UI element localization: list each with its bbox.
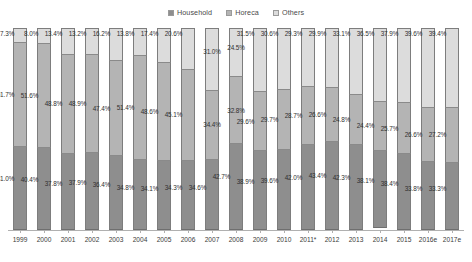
bar-column[interactable]: 29.9%26.6%43.4% — [325, 28, 338, 230]
bar-column[interactable]: 20.6%45.1%34.3% — [181, 28, 194, 230]
x-axis-tick-label: 2003 — [109, 236, 124, 243]
legend-item-label: Others — [282, 8, 304, 17]
bar-value-label: 38.1% — [357, 177, 375, 184]
x-axis-tick-label: 2011* — [300, 236, 317, 243]
bar-value-label: 26.6% — [405, 131, 423, 138]
bar-segment-household[interactable]: 34.8% — [133, 160, 146, 230]
bar-value-label: 31.0% — [203, 48, 221, 55]
x-axis-tick-label: 2009 — [253, 236, 268, 243]
bar-column[interactable]: 13.4%48.8%37.8% — [61, 28, 74, 230]
bar-segment-household[interactable]: 33.8% — [421, 162, 434, 230]
x-axis-tick-label: 2004 — [133, 236, 148, 243]
x-axis-tick-mark — [140, 230, 141, 233]
legend-item-horeca[interactable]: Horeca — [226, 8, 259, 17]
bar-segment-household[interactable]: 39.6% — [277, 150, 290, 230]
bar-value-label: 13.4% — [45, 30, 63, 37]
bar-column[interactable]: 13.8%51.4%34.8% — [133, 28, 146, 230]
x-axis-tick-label: 2002 — [85, 236, 100, 243]
bar-column[interactable]: 7.3%51.7%41.0% — [13, 28, 26, 230]
bar-segment-horeca[interactable]: 45.1% — [181, 70, 194, 161]
bar-column[interactable]: 31.5%29.6%38.9% — [253, 28, 266, 230]
x-axis-tick-label: 2007 — [205, 236, 220, 243]
bar-segment-household[interactable]: 36.4% — [109, 156, 122, 230]
bar-segment-others[interactable]: 30.6% — [277, 28, 290, 90]
x-axis-tick-label: 2010 — [277, 236, 292, 243]
x-axis-tick-mark — [284, 230, 285, 233]
bar-segment-household[interactable]: 42.3% — [349, 145, 362, 230]
bar-segment-others[interactable]: 37.9% — [397, 28, 410, 103]
bar-segment-others[interactable]: 31.0% — [205, 28, 218, 91]
bar-segment-household[interactable]: 38.1% — [373, 151, 386, 228]
bar-value-label: 36.4% — [93, 181, 111, 188]
bar-segment-household[interactable]: 33.3% — [445, 163, 458, 230]
bar-segment-others[interactable]: 39.6% — [421, 28, 434, 108]
bar-segment-household[interactable]: 34.3% — [181, 161, 194, 230]
bar-segment-others[interactable]: 33.1% — [349, 28, 362, 95]
bar-column[interactable]: 37.9%25.7%38.4% — [397, 28, 410, 230]
bar-segment-horeca[interactable]: 34.4% — [205, 91, 218, 160]
x-axis-tick-label: 2000 — [37, 236, 52, 243]
bar-value-label: 30.6% — [261, 30, 279, 37]
bar-column[interactable]: 31.0%34.4%34.6% — [205, 28, 218, 230]
bar-column[interactable]: 39.6%26.6%33.8% — [421, 28, 434, 230]
bar-segment-household[interactable]: 40.4% — [37, 148, 50, 230]
x-axis-tick-mark — [212, 230, 213, 233]
bar-value-label: 32.8% — [227, 107, 245, 114]
bar-value-label: 38.4% — [381, 180, 399, 187]
bar-segment-household[interactable]: 34.1% — [157, 161, 170, 230]
legend-item-household[interactable]: Household — [168, 8, 212, 17]
bar-segment-others[interactable]: 29.9% — [325, 28, 338, 88]
bar-column[interactable]: 8.0%51.6%40.4% — [37, 28, 50, 230]
bar-column[interactable]: 30.6%29.7%39.6% — [277, 28, 290, 230]
bar-segment-household[interactable]: 42.0% — [301, 145, 314, 230]
bar-value-label: 24.4% — [357, 122, 375, 129]
bar-segment-household[interactable]: 43.4% — [325, 142, 338, 230]
bar-value-label: 45.1% — [165, 111, 183, 118]
legend-swatch-icon — [273, 10, 279, 16]
bar-column[interactable]: 13.2%48.9%37.9% — [85, 28, 98, 230]
bar-segment-others[interactable]: 36.5% — [373, 28, 386, 102]
bar-segment-others[interactable]: 39.4% — [445, 28, 458, 108]
bar-segment-household[interactable]: 38.4% — [397, 154, 410, 230]
bar-column[interactable]: 24.5%32.8%42.7% — [229, 28, 242, 230]
x-axis-tick-mark — [260, 230, 261, 233]
bar-segment-household[interactable]: 37.9% — [85, 153, 98, 230]
bar-column[interactable]: 17.4%48.6%34.1% — [157, 28, 170, 230]
bar-segment-others[interactable]: 31.5% — [253, 28, 266, 92]
bar-column[interactable]: 16.2%47.4%36.4% — [109, 28, 122, 230]
bar-value-label: 40.4% — [21, 176, 39, 183]
bar-segment-horeca[interactable]: 27.2% — [445, 108, 458, 163]
chart-plot-area: 7.3%51.7%41.0%8.0%51.6%40.4%13.4%48.8%37… — [8, 28, 464, 230]
x-axis-tick-mark — [116, 230, 117, 233]
bar-segment-horeca[interactable]: 29.7% — [277, 90, 290, 150]
bar-column[interactable]: 39.4%27.2%33.3% — [445, 28, 458, 230]
bar-segment-others[interactable]: 20.6% — [181, 28, 194, 70]
bar-segment-household[interactable]: 41.0% — [13, 147, 26, 230]
bar-segment-household[interactable]: 38.9% — [253, 151, 266, 230]
bar-value-label: 39.6% — [261, 177, 279, 184]
bar-segment-household[interactable]: 34.6% — [205, 160, 218, 230]
bar-value-label: 27.2% — [429, 131, 447, 138]
bar-value-label: 29.9% — [309, 30, 327, 37]
bar-segment-household[interactable]: 42.7% — [229, 144, 242, 230]
bar-segment-horeca[interactable]: 24.8% — [349, 95, 362, 145]
bar-column[interactable]: 29.3%28.7%42.0% — [301, 28, 314, 230]
bar-value-label: 31.5% — [237, 30, 255, 37]
bar-segment-horeca[interactable]: 32.8% — [229, 77, 242, 143]
bar-segment-household[interactable]: 37.8% — [61, 154, 74, 230]
x-axis-tick-label: 2012 — [325, 236, 340, 243]
bar-value-label: 13.8% — [117, 30, 135, 37]
legend-item-others[interactable]: Others — [273, 8, 304, 17]
x-axis-tick-label: 2015 — [397, 236, 412, 243]
bar-segment-horeca[interactable]: 25.7% — [397, 103, 410, 154]
legend-swatch-icon — [226, 10, 232, 16]
bar-value-label: 47.4% — [93, 105, 111, 112]
x-axis-tick-mark — [356, 230, 357, 233]
x-axis-tick-mark — [188, 230, 189, 233]
bar-value-label: 33.3% — [429, 185, 447, 192]
x-axis-tick-mark — [428, 230, 429, 233]
bar-segment-horeca[interactable]: 51.6% — [37, 44, 50, 148]
x-axis-tick-mark — [68, 230, 69, 233]
x-axis-tick-label: 2006 — [181, 236, 196, 243]
bar-value-label: 7.3% — [0, 30, 14, 37]
